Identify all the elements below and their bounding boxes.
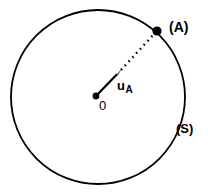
point-a-dot [152, 26, 161, 35]
unit-vector-label: uA [117, 79, 133, 95]
unit-vector-label-subscript: A [125, 84, 133, 95]
geometry-figure: (A) (S) 0 uA [0, 0, 208, 192]
radius-dotted-segment [121, 33, 155, 70]
origin-label: 0 [99, 99, 106, 112]
point-a-label: (A) [169, 20, 188, 34]
unit-vector-shaft [96, 75, 117, 96]
unit-vector-label-main: u [117, 78, 125, 93]
circle-s-label: (S) [176, 122, 193, 135]
